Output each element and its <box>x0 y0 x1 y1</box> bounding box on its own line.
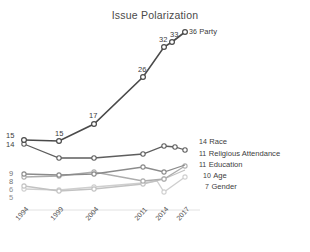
series-value-education: 11 <box>199 161 206 168</box>
left-label-15: 15 <box>6 132 14 140</box>
party-label-2014: 32 <box>159 36 167 44</box>
series-label-race: 14Race <box>199 138 227 146</box>
series-race <box>22 142 187 160</box>
chart-container: Issue Polarization <box>0 0 310 252</box>
series-name-age: Age <box>213 171 227 180</box>
series-label-party: 36Party <box>189 28 217 36</box>
party-label-1999: 15 <box>55 130 63 138</box>
series-name-party: Party <box>199 27 217 36</box>
series-name-religious-attendance: Religious Attendance <box>209 149 280 158</box>
series-label-gender: 7Gender <box>205 183 237 191</box>
left-label-14: 14 <box>6 141 14 149</box>
series-religious-attendance <box>22 165 185 177</box>
series-label-religious-attendance: 11Religious Attendance <box>199 150 280 158</box>
series-name-race: Race <box>209 137 227 146</box>
series-label-age: 10Age <box>203 172 227 180</box>
left-label-5: 5 <box>9 194 13 202</box>
series-label-education: 11Education <box>199 161 243 169</box>
party-label-2004: 17 <box>89 112 97 120</box>
series-name-education: Education <box>209 160 243 169</box>
series-value-race: 14 <box>199 138 207 145</box>
series-value-gender: 7 <box>205 183 209 190</box>
series-value-age: 10 <box>203 172 211 179</box>
party-label-2011: 26 <box>138 66 146 74</box>
series-party <box>22 30 188 144</box>
series-name-gender: Gender <box>211 182 236 191</box>
party-label-2015: 33 <box>170 31 178 39</box>
series-value-religious-attendance: 11 <box>199 150 206 157</box>
series-value-party: 36 <box>189 28 197 35</box>
